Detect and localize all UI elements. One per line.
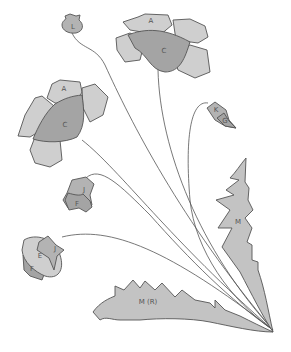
middle-bud: J F	[63, 177, 94, 212]
lower-bud: E J F	[22, 236, 64, 280]
label-top-petal: A	[149, 17, 154, 25]
left-flower: A C	[18, 80, 108, 167]
label-right-leaf: M	[235, 218, 241, 226]
label-mid-bud-top: J	[82, 186, 85, 194]
poppy-diagram: A C L A C K G J F E J F	[0, 0, 291, 352]
label-right-bud-top: K	[214, 106, 219, 114]
label-low-bud-petal: E	[38, 252, 42, 260]
label-top-center: C	[162, 47, 167, 55]
label-left-petal: A	[62, 85, 67, 93]
top-flower: A C	[116, 14, 210, 78]
label-left-center: C	[63, 121, 68, 129]
label-bottom-leaf: M (R)	[139, 298, 158, 306]
label-mid-bud-bottom: F	[75, 200, 79, 208]
label-right-bud-bottom: G	[222, 117, 227, 125]
right-bud: K G	[207, 102, 236, 128]
top-bud: L	[62, 14, 82, 33]
label-low-bud-top: J	[53, 245, 56, 253]
label-top-bud: L	[71, 23, 75, 31]
label-low-bud-bottom: F	[30, 265, 34, 273]
